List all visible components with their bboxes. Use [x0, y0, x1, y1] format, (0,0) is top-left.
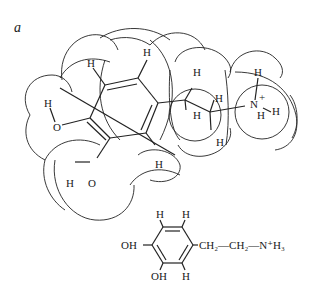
hydroxyl-upper: OH [121, 239, 137, 251]
hydroxyl-lower: OH [151, 270, 167, 282]
structural-formula: H H H OH OH CH₂—CH₂—N⁺H₃ [121, 208, 285, 282]
atom-label: H [193, 66, 201, 78]
ring-h-top-left: H [156, 208, 164, 220]
atom-label: H [257, 109, 265, 121]
molecule-diagram: H H H O H O H H H H H N + H H H H [0, 0, 323, 294]
atom-label: H [44, 97, 52, 109]
ring-h-top-right: H [182, 208, 190, 220]
amine-nitrogen: N + [250, 91, 265, 110]
atom-label: H [254, 66, 262, 78]
side-chain: CH₂—CH₂—N⁺H₃ [199, 239, 285, 251]
ring-h-bottom: H [182, 270, 190, 282]
charge-label: + [259, 91, 265, 103]
atom-labels: H H H O H O H H H H H N + H H H [44, 46, 280, 189]
atom-label: H [215, 92, 223, 104]
atom-label: O [53, 121, 61, 133]
atom-label: H [193, 109, 201, 121]
atom-label: H [272, 105, 280, 117]
atom-label: H [216, 136, 224, 148]
atom-label: H [155, 158, 163, 170]
molecule-bonds [50, 60, 271, 162]
atom-label: H [143, 46, 151, 58]
atom-label: H [87, 57, 95, 69]
atom-label: O [88, 177, 96, 189]
atom-label: H [66, 177, 74, 189]
